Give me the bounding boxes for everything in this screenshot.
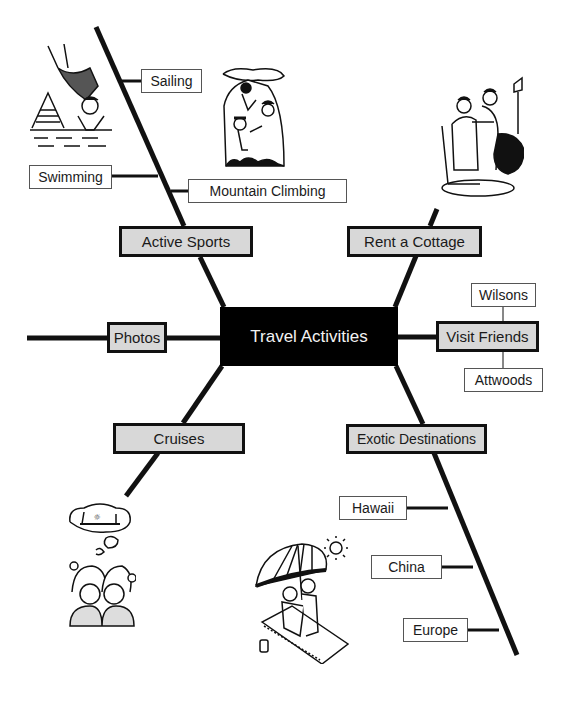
leaf-china[interactable]: China	[371, 555, 442, 579]
cruises-to-center-line	[183, 366, 222, 423]
branch-label: Cruises	[154, 430, 205, 447]
branch-visit-friends[interactable]: Visit Friends	[436, 321, 539, 352]
mountain-climbers-clipart	[218, 66, 288, 172]
leaf-label: Wilsons	[479, 287, 528, 303]
leaf-europe[interactable]: Europe	[403, 618, 468, 642]
leaf-attwoods[interactable]: Attwoods	[464, 368, 543, 392]
couple-by-wood-stove-clipart	[428, 74, 524, 202]
leaf-wilsons[interactable]: Wilsons	[471, 283, 536, 307]
svg-text:☼: ☼	[93, 513, 100, 522]
leaf-sailing[interactable]: Sailing	[141, 69, 202, 93]
central-topic-travel-activities[interactable]: Travel Activities	[220, 307, 398, 366]
branch-label: Active Sports	[142, 233, 230, 250]
branch-label: Visit Friends	[446, 328, 528, 345]
mind-map-canvas: ☼ Travel A	[0, 0, 571, 707]
branch-active-sports[interactable]: Active Sports	[119, 226, 253, 257]
branch-cruises[interactable]: Cruises	[113, 423, 245, 454]
leaf-label: Sailing	[150, 73, 192, 89]
branch-label: Photos	[114, 329, 161, 346]
cottage-top-line	[430, 209, 437, 226]
branch-label: Exotic Destinations	[357, 431, 476, 447]
leaf-label: Europe	[413, 622, 458, 638]
couple-dreaming-of-island-clipart: ☼	[66, 502, 136, 628]
leaf-hawaii[interactable]: Hawaii	[339, 496, 407, 520]
cottage-to-center-line	[395, 256, 416, 307]
leaf-label: Mountain Climbing	[210, 183, 326, 199]
leaf-label: Attwoods	[475, 372, 533, 388]
exotic-to-center-line	[396, 366, 423, 424]
branch-exotic-destinations[interactable]: Exotic Destinations	[346, 424, 487, 454]
leaf-label: China	[388, 559, 425, 575]
leaf-label: Hawaii	[352, 500, 394, 516]
branch-rent-a-cottage[interactable]: Rent a Cottage	[347, 226, 482, 257]
active-sports-to-center-line	[200, 257, 224, 307]
central-topic-label: Travel Activities	[250, 327, 367, 347]
leaf-label: Swimming	[38, 169, 103, 185]
leaf-swimming[interactable]: Swimming	[29, 165, 112, 189]
branch-photos[interactable]: Photos	[107, 322, 167, 353]
cruises-bottom-line	[126, 453, 158, 496]
swimmer-diving-clipart	[28, 38, 114, 153]
branch-label: Rent a Cottage	[364, 233, 465, 250]
leaf-mountain-climbing[interactable]: Mountain Climbing	[188, 179, 347, 203]
couple-under-beach-umbrella-clipart	[252, 536, 362, 664]
